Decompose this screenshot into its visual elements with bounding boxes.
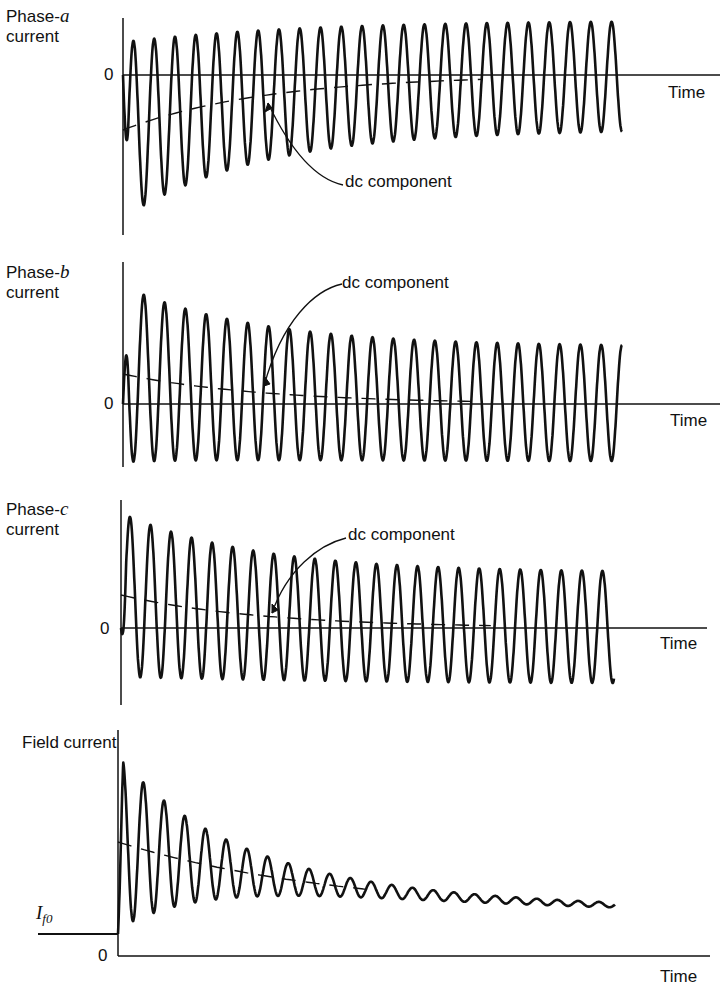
panel-c-zero-label: 0	[100, 619, 109, 639]
panel-field-ylabel: Field current	[22, 733, 116, 753]
dc-component-b	[123, 374, 482, 402]
dc-component-a	[123, 79, 482, 130]
panel-a-annotation: dc component	[345, 172, 452, 192]
annotation-arrowhead-b	[264, 377, 270, 386]
panel-c-xlabel: Time	[660, 634, 697, 654]
series-field-current	[118, 763, 615, 934]
panel-c-ylabel: Phase-ccurrent	[6, 499, 68, 540]
panel-b-ylabel: Phase-bcurrent	[6, 262, 69, 303]
series-b-current	[123, 295, 622, 462]
panel-b-zero-label: 0	[104, 394, 113, 414]
panel-a-zero-label: 0	[104, 65, 113, 85]
panel-b-xlabel: Time	[670, 411, 707, 431]
panel-a-ylabel: Phase-acurrent	[6, 6, 69, 47]
panel-a-xlabel: Time	[668, 83, 705, 103]
panel-b-annotation: dc component	[342, 273, 449, 293]
panel-c-annotation: dc component	[348, 525, 455, 545]
panel-field-level-label: If0	[36, 903, 52, 929]
annotation-arrow-c	[272, 538, 346, 613]
chart-canvas	[0, 0, 727, 996]
panel-field-zero-label: 0	[98, 946, 107, 966]
annotation-arrowhead-a	[265, 103, 272, 112]
panel-field-xlabel: Time	[660, 967, 697, 987]
